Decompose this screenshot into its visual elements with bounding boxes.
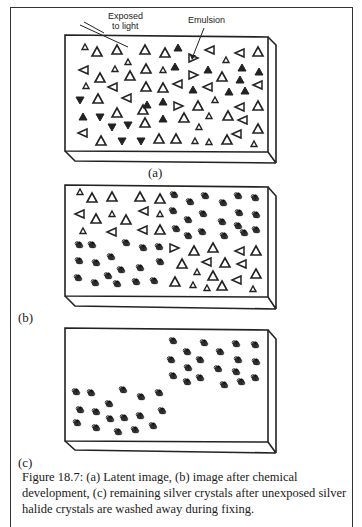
panel-label-a: (a) [148,165,162,181]
emulsion-label: Emulsion [188,15,225,25]
panel-label-b: (b) [18,310,33,326]
plate-a [65,22,276,163]
plate-c [65,328,276,453]
exposed-label-line2: to light [108,21,143,31]
exposed-to-light-label: Exposed to light [108,11,143,31]
exposed-label-line1: Exposed [108,11,143,21]
figure-caption: Figure 18.7: (a) Latent image, (b) image… [22,469,352,517]
plate-b [65,185,276,309]
